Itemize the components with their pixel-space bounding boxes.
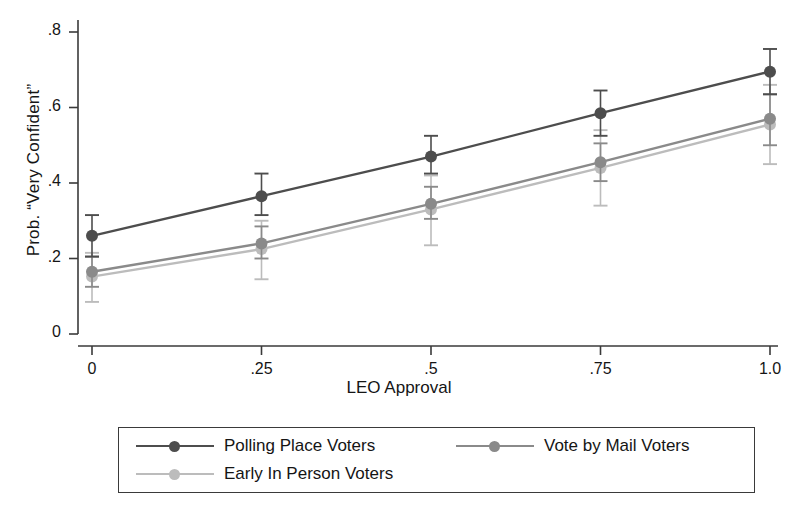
data-point	[256, 237, 268, 249]
legend-entry-polling-place[interactable]: Polling Place Voters	[136, 436, 375, 456]
data-point	[86, 266, 98, 278]
x-tick-label: 0	[57, 360, 127, 378]
legend-label-early-in-person: Early In Person Voters	[224, 464, 393, 484]
data-point	[764, 66, 776, 78]
legend-marker	[489, 441, 500, 452]
data-point	[595, 156, 607, 168]
legend-label-polling-place: Polling Place Voters	[224, 436, 375, 456]
legend-entry-vote-by-mail[interactable]: Vote by Mail Voters	[456, 436, 690, 456]
data-point	[256, 190, 268, 202]
legend-line-early-in-person	[136, 467, 214, 481]
y-tick-label: .8	[13, 21, 61, 39]
y-tick-label: .4	[13, 172, 61, 190]
data-point	[86, 230, 98, 242]
y-tick-label: .6	[13, 97, 61, 115]
legend-line-polling-place	[136, 439, 214, 453]
data-point	[764, 113, 776, 125]
data-point	[595, 107, 607, 119]
x-tick-label: .25	[227, 360, 297, 378]
legend-line-vote-by-mail	[456, 439, 534, 453]
y-tick-label: .2	[13, 248, 61, 266]
legend-entry-early-in-person[interactable]: Early In Person Voters	[136, 464, 393, 484]
x-tick-label: .5	[396, 360, 466, 378]
x-tick-label: .75	[566, 360, 636, 378]
chart-figure: Prob. “Very Confident” LEO Approval 0.2.…	[0, 0, 798, 505]
legend-marker	[169, 469, 180, 480]
data-point	[425, 198, 437, 210]
legend: Polling Place Voters Early In Person Vot…	[118, 427, 755, 493]
legend-marker	[169, 441, 180, 452]
data-point	[425, 151, 437, 163]
series-vote-by-mail-voters	[85, 94, 777, 287]
x-tick-label: 1.0	[735, 360, 798, 378]
x-axis-title: LEO Approval	[0, 378, 798, 398]
y-tick-label: 0	[13, 323, 61, 341]
legend-label-vote-by-mail: Vote by Mail Voters	[544, 436, 690, 456]
